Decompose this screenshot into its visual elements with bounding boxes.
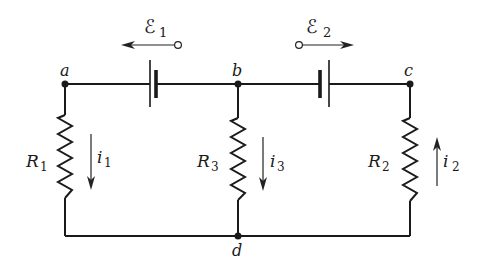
- svg-text:1: 1: [40, 160, 48, 174]
- node-c: [407, 81, 414, 88]
- emf-1-label: ℰ 1: [144, 15, 167, 40]
- current-i2-arrow-icon: [433, 137, 441, 186]
- svg-text:R: R: [196, 151, 210, 171]
- current-i2-label: i 2: [443, 151, 460, 174]
- svg-text:i: i: [97, 147, 102, 167]
- circuit-diagram: a b c d ℰ 1 ℰ 2 R 1 R 3 R 2 i 1 i 3 i 2: [0, 0, 484, 279]
- current-i3-arrow-icon: [259, 137, 267, 191]
- resistor-r1: [58, 84, 72, 236]
- node-label-c: c: [404, 61, 413, 80]
- svg-text:i: i: [443, 151, 448, 171]
- svg-text:R: R: [367, 151, 381, 171]
- svg-text:3: 3: [277, 160, 285, 174]
- current-i1-label: i 1: [97, 147, 112, 170]
- svg-text:ℰ: ℰ: [144, 15, 156, 37]
- node-label-a: a: [60, 61, 70, 80]
- battery-emf-1: [150, 60, 156, 107]
- svg-text:ℰ: ℰ: [306, 15, 318, 37]
- node-d: [235, 233, 242, 240]
- node-a: [62, 81, 69, 88]
- resistor-r2: [403, 84, 417, 236]
- resistor-r1-label: R 1: [25, 151, 48, 174]
- svg-text:3: 3: [211, 160, 219, 174]
- node-label-d: d: [232, 241, 242, 260]
- svg-text:R: R: [25, 151, 39, 171]
- svg-text:2: 2: [382, 160, 390, 174]
- current-i1-arrow-icon: [87, 134, 95, 190]
- svg-text:i: i: [270, 151, 275, 171]
- battery-emf-2: [320, 60, 329, 107]
- svg-text:2: 2: [452, 160, 460, 174]
- svg-text:2: 2: [323, 25, 331, 40]
- svg-text:1: 1: [159, 25, 167, 40]
- resistor-r3-label: R 3: [196, 151, 219, 174]
- emf-2-label: ℰ 2: [306, 15, 331, 40]
- emf-2-arrow-icon: [296, 41, 354, 49]
- svg-text:1: 1: [104, 156, 112, 170]
- emf-1-arrow-icon: [121, 41, 181, 49]
- node-b: [235, 81, 242, 88]
- resistor-r3: [231, 84, 245, 236]
- node-label-b: b: [232, 61, 242, 80]
- current-i3-label: i 3: [270, 151, 285, 174]
- resistor-r2-label: R 2: [367, 151, 390, 174]
